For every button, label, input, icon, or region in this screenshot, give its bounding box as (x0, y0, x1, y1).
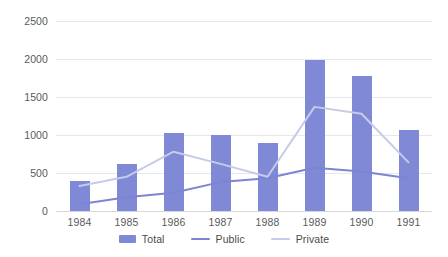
legend-item-private[interactable]: Private (271, 233, 329, 245)
chart-figure: 05001000150020002500 1984198519861987198… (0, 0, 448, 257)
plot-area: 05001000150020002500 1984198519861987198… (56, 21, 432, 211)
gridline-0 (56, 211, 432, 212)
line-series-public (80, 168, 409, 204)
y-tick-label-500: 500 (30, 167, 48, 179)
x-tick-label-1987: 1987 (209, 216, 233, 228)
legend-label-public: Public (216, 233, 245, 245)
legend-swatch-bar-icon (119, 235, 136, 243)
y-tick-label-2000: 2000 (24, 53, 48, 65)
legend-swatch-line-icon (271, 238, 290, 240)
legend-item-total[interactable]: Total (119, 233, 165, 245)
x-tick-label-1985: 1985 (115, 216, 139, 228)
line-series-private (80, 107, 409, 186)
legend-label-total: Total (142, 233, 165, 245)
y-tick-label-2500: 2500 (24, 15, 48, 27)
x-tick-label-1990: 1990 (350, 216, 374, 228)
x-tick-label-1991: 1991 (397, 216, 421, 228)
line-series-group (56, 21, 432, 211)
x-tick-label-1989: 1989 (303, 216, 327, 228)
legend-item-public[interactable]: Public (191, 233, 245, 245)
y-tick-label-1000: 1000 (24, 129, 48, 141)
legend-label-private: Private (296, 233, 329, 245)
legend-swatch-line-icon (191, 238, 210, 240)
chart-legend: TotalPublicPrivate (0, 233, 448, 245)
y-tick-label-1500: 1500 (24, 91, 48, 103)
y-tick-label-0: 0 (42, 205, 48, 217)
x-tick-label-1984: 1984 (68, 216, 92, 228)
x-tick-label-1988: 1988 (256, 216, 280, 228)
x-tick-label-1986: 1986 (162, 216, 186, 228)
